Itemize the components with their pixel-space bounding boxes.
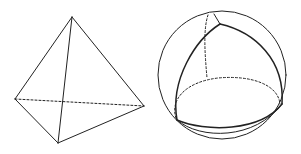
geometry-figure [0, 0, 301, 154]
front-bottom-edge [177, 104, 282, 128]
spherical-tetrahedron [158, 11, 286, 139]
tetrahedron [15, 17, 144, 143]
lower-arc [177, 104, 282, 133]
front-left-edge [176, 24, 220, 120]
edge-top-left [15, 17, 72, 99]
edge-front-right [58, 106, 144, 143]
apex-edge [214, 14, 220, 24]
edge-top-front [58, 17, 72, 143]
edge-top-right [72, 17, 144, 106]
hidden-vertical-edge [205, 15, 208, 78]
edge-left-right-hidden [15, 99, 144, 106]
edge-left-front [15, 99, 58, 143]
hidden-base-arc [175, 77, 280, 118]
